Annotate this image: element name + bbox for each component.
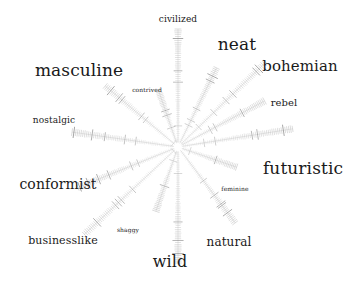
spoke-contrived [155,89,177,143]
label-feminine: feminine [221,186,248,192]
label-futuristic: futuristic [263,160,343,177]
label-neat: neat [218,36,256,53]
label-wild: wild [153,254,188,270]
label-contrived: contrived [132,87,162,93]
spoke-civilized [173,29,183,143]
spoke-bohemian [181,60,268,144]
label-conformist: conformist [19,177,96,191]
label-natural: natural [207,236,252,248]
label-masculine: masculine [35,62,123,79]
spoke-wild [172,151,184,263]
label-businesslike: businesslike [28,235,98,246]
radial-diagram-figure: civilizedneatbohemianrebelfuturisticfemi… [0,0,350,285]
spoke-shaggy [152,151,177,213]
label-bohemian: bohemian [262,59,338,74]
spoke-neat [180,66,220,143]
spoke-feminine [182,147,238,170]
label-nostalgic: nostalgic [33,116,75,125]
label-civilized: civilized [159,15,197,24]
label-rebel: rebel [271,98,298,108]
label-shaggy: shaggy [117,227,139,233]
